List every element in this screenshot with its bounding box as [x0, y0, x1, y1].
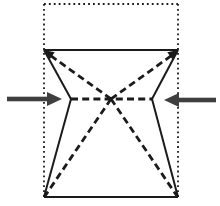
crease-bottom-left-dashed	[45, 99, 111, 196]
crease-top-right-dashed	[111, 53, 175, 99]
origami-diagram-svg	[0, 0, 220, 206]
left-lower-edge-solid	[44, 99, 71, 197]
push-arrow-left-shaft	[7, 97, 48, 102]
left-upper-edge-solid	[44, 50, 71, 99]
right-lower-edge-solid	[152, 99, 178, 197]
crease-top-left-dashed	[47, 53, 111, 99]
push-arrow-right-shaft	[178, 98, 216, 103]
push-arrow-right	[164, 93, 216, 107]
origami-diagram-stage	[0, 0, 220, 206]
push-arrow-left	[7, 92, 62, 106]
right-upper-edge-solid	[152, 50, 178, 99]
push-arrow-right-head	[164, 93, 179, 107]
push-arrow-left-head	[47, 92, 62, 106]
crease-bottom-right-dashed	[111, 99, 177, 196]
